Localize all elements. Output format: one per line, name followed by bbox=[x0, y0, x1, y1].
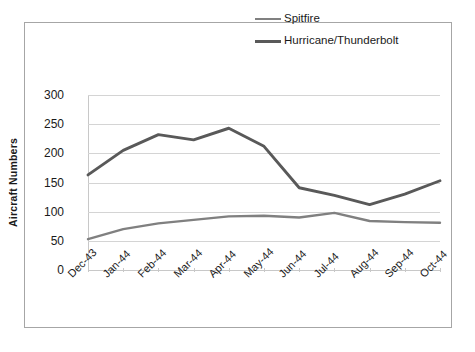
x-tick-mark-4 bbox=[229, 268, 230, 272]
y-tick-label-200: 200 bbox=[30, 147, 64, 159]
x-tick-mark-8 bbox=[370, 268, 371, 272]
y-tick-label-50: 50 bbox=[30, 235, 64, 247]
y-tick-label-150: 150 bbox=[30, 177, 64, 189]
y-tick-label-250: 250 bbox=[30, 118, 64, 130]
plot-series-svg bbox=[88, 95, 440, 270]
series-line-spitfire bbox=[88, 213, 440, 239]
legend-line-swatch-spitfire bbox=[255, 18, 281, 20]
x-axis-tick-labels: Dec-43Jan-44Feb-44Mar-44Apr-44May-44Jun-… bbox=[88, 272, 440, 328]
legend-label-hurricane-thunderbolt: Hurricane/Thunderbolt bbox=[284, 35, 398, 47]
legend-line-swatch-hurricane-thunderbolt bbox=[255, 40, 281, 43]
x-tick-mark-9 bbox=[405, 268, 406, 272]
legend-item-spitfire[interactable]: Spitfire bbox=[255, 8, 430, 30]
x-tick-mark-5 bbox=[264, 268, 265, 272]
chart-legend: Spitfire Hurricane/Thunderbolt bbox=[255, 8, 430, 52]
y-axis-title: Aircraft Numbers bbox=[6, 108, 20, 258]
plot-area bbox=[88, 95, 440, 270]
x-tick-mark-10 bbox=[440, 268, 441, 272]
legend-label-spitfire: Spitfire bbox=[284, 13, 320, 25]
legend-item-hurricane-thunderbolt[interactable]: Hurricane/Thunderbolt bbox=[255, 30, 430, 52]
y-tick-label-300: 300 bbox=[30, 89, 64, 101]
y-tick-label-0: 0 bbox=[30, 264, 64, 276]
y-axis-tick-labels: 050100150200250300 bbox=[24, 0, 64, 352]
x-tick-mark-1 bbox=[123, 268, 124, 272]
x-tick-mark-6 bbox=[299, 268, 300, 272]
x-tick-mark-7 bbox=[334, 268, 335, 272]
series-line-hurricane-thunderbolt bbox=[88, 128, 440, 204]
x-tick-mark-2 bbox=[158, 268, 159, 272]
x-tick-mark-0 bbox=[88, 268, 89, 272]
x-tick-mark-3 bbox=[194, 268, 195, 272]
y-tick-label-100: 100 bbox=[30, 206, 64, 218]
